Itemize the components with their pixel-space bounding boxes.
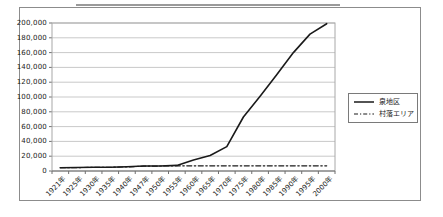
series-line-0 — [60, 24, 326, 168]
y-axis-tick-label: 0 — [11, 167, 47, 175]
y-axis-tick-label: 200,000 — [11, 19, 47, 27]
y-axis-tick-label: 120,000 — [11, 78, 47, 86]
legend-entry-izumi-district: 泉地区 — [353, 98, 413, 106]
dash-dot-line-icon — [353, 112, 375, 116]
legend: 泉地区 村落エリア — [348, 93, 418, 123]
y-axis-tick-label: 60,000 — [11, 123, 47, 131]
solid-line-icon — [353, 100, 375, 104]
y-axis-tick-label: 140,000 — [11, 63, 47, 71]
y-axis-tick-label: 180,000 — [11, 34, 47, 42]
y-axis-tick-label: 40,000 — [11, 137, 47, 145]
y-axis-tick-label: 20,000 — [11, 152, 47, 160]
y-axis-tick-label: 160,000 — [11, 49, 47, 57]
legend-label-izumi-district: 泉地区 — [379, 98, 400, 106]
legend-label-village-area: 村落エリア — [379, 110, 414, 118]
chart-area: 020,00040,00060,00080,000100,000120,0001… — [0, 0, 443, 217]
y-axis-tick-label: 80,000 — [11, 108, 47, 116]
legend-entry-village-area: 村落エリア — [353, 110, 413, 118]
y-axis-tick-label: 100,000 — [11, 93, 47, 101]
